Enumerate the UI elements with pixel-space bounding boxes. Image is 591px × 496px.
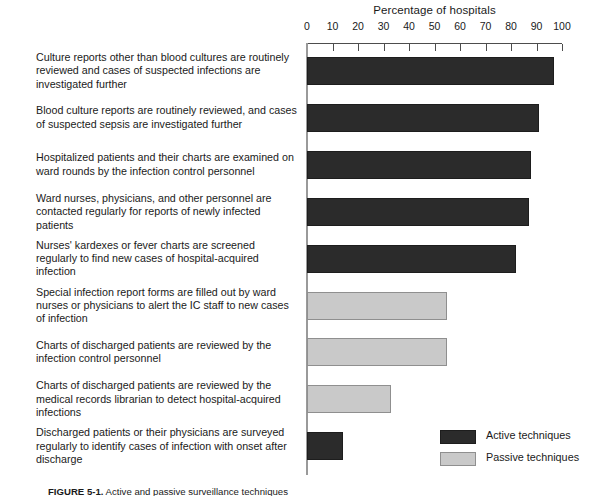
legend-swatch-passive bbox=[440, 452, 476, 466]
category-label-7: Charts of discharged patients are review… bbox=[36, 339, 298, 366]
category-label-1: Culture reports other than blood culture… bbox=[36, 51, 298, 91]
legend-swatch-active bbox=[440, 430, 476, 444]
bar-9 bbox=[307, 432, 343, 460]
category-label-9: Discharged patients or their physicians … bbox=[36, 426, 298, 466]
bar-5 bbox=[307, 245, 516, 273]
plot-area: Culture reports other than blood culture… bbox=[0, 0, 591, 496]
caption-number: FIGURE 5-1. bbox=[48, 486, 103, 496]
bar-8 bbox=[307, 385, 391, 413]
category-label-5: Nurses' kardexes or fever charts are scr… bbox=[36, 239, 298, 279]
caption-text: Active and passive surveillance techniqu… bbox=[106, 486, 288, 496]
bar-7 bbox=[307, 338, 447, 366]
legend-label-active: Active techniques bbox=[486, 429, 571, 441]
category-label-8: Charts of discharged patients are review… bbox=[36, 379, 298, 419]
legend-label-passive: Passive techniques bbox=[486, 451, 579, 463]
bar-6 bbox=[307, 292, 447, 320]
category-label-6: Special infection report forms are fille… bbox=[36, 286, 298, 326]
bar-2 bbox=[307, 104, 539, 132]
category-label-3: Hospitalized patients and their charts a… bbox=[36, 151, 298, 178]
bar-1 bbox=[307, 57, 554, 85]
category-label-2: Blood culture reports are routinely revi… bbox=[36, 104, 298, 131]
bar-3 bbox=[307, 151, 531, 179]
figure-chart: Percentage of hospitals 0102030405060708… bbox=[0, 0, 591, 496]
category-label-4: Ward nurses, physicians, and other perso… bbox=[36, 192, 298, 232]
bar-4 bbox=[307, 198, 529, 226]
figure-caption: FIGURE 5-1. Active and passive surveilla… bbox=[48, 486, 568, 496]
